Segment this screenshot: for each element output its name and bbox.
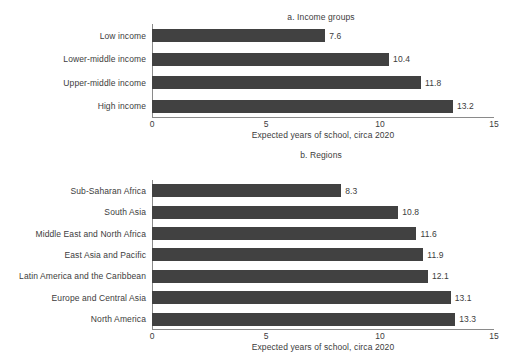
x-tick-label: 15 <box>489 331 498 341</box>
bar-value-label: 10.4 <box>393 54 410 64</box>
bar <box>152 100 453 113</box>
panel-b-plot-area: Sub-Saharan Africa8.3South Asia10.8Middl… <box>152 180 494 330</box>
panel-b-x-axis-label: Expected years of school, circa 2020 <box>152 342 494 352</box>
bar-value-label: 11.6 <box>420 229 436 239</box>
panel-a-plot-area: Low income7.6Lower-middle income10.4Uppe… <box>152 24 494 118</box>
x-tick-label: 5 <box>264 331 269 341</box>
bar-category-label: South Asia <box>104 207 146 217</box>
bar-value-label: 8.3 <box>345 186 357 196</box>
bar-row: High income13.2 <box>152 100 494 113</box>
panel-b-bar-rows: Sub-Saharan Africa8.3South Asia10.8Middl… <box>152 180 494 330</box>
bar-category-label: Latin America and the Caribbean <box>19 271 146 281</box>
bar-category-label: North America <box>91 314 146 324</box>
bar-category-label: East Asia and Pacific <box>65 250 146 260</box>
panel-b-title: b. Regions <box>0 150 512 160</box>
bar <box>152 227 416 240</box>
bar <box>152 29 325 42</box>
bar-row: Sub-Saharan Africa8.3 <box>152 184 494 197</box>
bar <box>152 76 421 89</box>
bar <box>152 184 341 197</box>
x-tick-label: 0 <box>150 119 155 129</box>
bar-category-label: Lower-middle income <box>63 54 146 64</box>
bar-row: Europe and Central Asia13.1 <box>152 291 494 304</box>
bar-value-label: 11.8 <box>425 78 441 88</box>
bar-row: Middle East and North Africa11.6 <box>152 227 494 240</box>
bar-row: Latin America and the Caribbean12.1 <box>152 270 494 283</box>
bar-row: Lower-middle income10.4 <box>152 53 494 66</box>
bar-category-label: Upper-middle income <box>63 78 146 88</box>
x-tick-label: 0 <box>150 331 155 341</box>
bar-value-label: 13.2 <box>457 101 474 111</box>
chart-panel-income-groups: a. Income groups Low income7.6Lower-midd… <box>0 0 512 140</box>
bar <box>152 53 389 66</box>
bar-category-label: Low income <box>100 31 146 41</box>
bar <box>152 291 451 304</box>
bar <box>152 270 428 283</box>
bar-row: East Asia and Pacific11.9 <box>152 248 494 261</box>
panel-a-bar-rows: Low income7.6Lower-middle income10.4Uppe… <box>152 24 494 118</box>
panel-a-x-axis-label: Expected years of school, circa 2020 <box>152 130 494 140</box>
panel-a-title: a. Income groups <box>0 12 512 22</box>
bar-category-label: Sub-Saharan Africa <box>70 186 146 196</box>
bar-value-label: 7.6 <box>329 31 341 41</box>
bar-value-label: 12.1 <box>432 271 449 281</box>
chart-panel-regions: b. Regions Sub-Saharan Africa8.3South As… <box>0 140 512 362</box>
bar-category-label: High income <box>98 101 146 111</box>
bar-row: Upper-middle income11.8 <box>152 76 494 89</box>
x-tick-label: 10 <box>375 331 384 341</box>
x-tick-label: 15 <box>489 119 498 129</box>
bar-row: South Asia10.8 <box>152 206 494 219</box>
bar <box>152 313 455 326</box>
bar-value-label: 13.3 <box>459 314 476 324</box>
bar-category-label: Middle East and North Africa <box>35 229 146 239</box>
bar <box>152 206 398 219</box>
bar <box>152 248 423 261</box>
bar-row: Low income7.6 <box>152 29 494 42</box>
bar-value-label: 10.8 <box>402 207 419 217</box>
bar-category-label: Europe and Central Asia <box>52 293 146 303</box>
bar-value-label: 11.9 <box>427 250 443 260</box>
bar-value-label: 13.1 <box>455 293 472 303</box>
x-tick-label: 10 <box>375 119 384 129</box>
x-tick-label: 5 <box>264 119 269 129</box>
bar-row: North America13.3 <box>152 313 494 326</box>
